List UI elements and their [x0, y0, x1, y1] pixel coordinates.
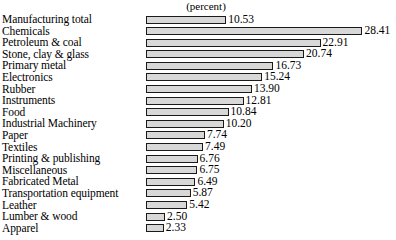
- bar-track: [146, 16, 226, 24]
- category-label: Industrial Machinery: [2, 117, 97, 129]
- bar-track: [146, 201, 187, 209]
- bar: [146, 224, 164, 232]
- bar: [146, 155, 198, 163]
- category-label: Electronics: [2, 71, 53, 83]
- category-label: Stone, clay & glass: [2, 48, 89, 60]
- category-label: Fabricated Metal: [2, 175, 79, 187]
- bar-value-label: 6.75: [199, 163, 219, 175]
- bar: [146, 73, 262, 81]
- bar-value-label: 10.53: [228, 13, 254, 25]
- bar-track: [146, 120, 224, 128]
- category-label: Lumber & wood: [2, 210, 77, 222]
- bar-value-label: 5.87: [193, 186, 213, 198]
- bar-chart: (percent) Manufacturing total10.53Chemic…: [0, 0, 396, 240]
- category-label: Printing & publishing: [2, 152, 100, 164]
- bar-track: [146, 131, 205, 139]
- bar-value-label: 10.84: [231, 105, 257, 117]
- bar-row: Apparel2.33: [0, 223, 396, 235]
- bar-value-label: 22.91: [323, 36, 349, 48]
- bar-track: [146, 97, 244, 105]
- bar: [146, 50, 304, 58]
- bar-value-label: 10.20: [226, 117, 252, 129]
- bar-row: Rubber13.90: [0, 84, 396, 96]
- bar-value-label: 12.81: [246, 94, 272, 106]
- bar: [146, 131, 205, 139]
- category-label: Food: [2, 106, 25, 118]
- bar-track: [146, 50, 304, 58]
- bar-row: Instruments12.81: [0, 95, 396, 107]
- bar-track: [146, 166, 197, 174]
- category-label: Petroleum & coal: [2, 36, 82, 48]
- category-label: Leather: [2, 199, 36, 211]
- bar-track: [146, 73, 262, 81]
- bar: [146, 16, 226, 24]
- bar-value-label: 6.49: [197, 175, 217, 187]
- bar-track: [146, 213, 165, 221]
- bar-track: [146, 108, 229, 116]
- bar: [146, 213, 165, 221]
- bar: [146, 120, 224, 128]
- chart-unit-header: (percent): [146, 0, 266, 13]
- bar-track: [146, 143, 203, 151]
- category-label: Apparel: [2, 222, 38, 234]
- bar: [146, 143, 203, 151]
- category-label: Miscellaneous: [2, 164, 67, 176]
- bar-track: [146, 62, 273, 70]
- bar: [146, 97, 244, 105]
- category-label: Transportation equipment: [2, 187, 118, 199]
- category-label: Paper: [2, 129, 28, 141]
- bar-value-label: 2.50: [167, 210, 187, 222]
- bar-value-label: 16.73: [275, 59, 301, 71]
- category-label: Textiles: [2, 141, 37, 153]
- bar-track: [146, 85, 252, 93]
- bar: [146, 189, 191, 197]
- bar: [146, 166, 197, 174]
- bar-row: Primary metal16.73: [0, 60, 396, 72]
- bar-value-label: 6.76: [200, 152, 220, 164]
- bar-value-label: 20.74: [306, 47, 332, 59]
- bar-value-label: 5.42: [189, 198, 209, 210]
- bar-value-label: 7.49: [205, 140, 225, 152]
- bar-row: Industrial Machinery10.20: [0, 118, 396, 130]
- bar: [146, 62, 273, 70]
- bar-track: [146, 224, 164, 232]
- bar: [146, 178, 195, 186]
- category-label: Chemicals: [2, 25, 50, 37]
- bar-track: [146, 178, 195, 186]
- category-label: Rubber: [2, 83, 35, 95]
- category-label: Manufacturing total: [2, 13, 92, 25]
- bar-track: [146, 27, 362, 35]
- bar-row: Paper7.74: [0, 130, 396, 142]
- bar: [146, 27, 362, 35]
- bar-track: [146, 155, 198, 163]
- bar: [146, 85, 252, 93]
- bar-value-label: 15.24: [264, 70, 290, 82]
- bar: [146, 201, 187, 209]
- bar-row: Electronics15.24: [0, 72, 396, 84]
- bar-track: [146, 189, 191, 197]
- chart-plot-area: Manufacturing total10.53Chemicals28.41Pe…: [0, 14, 396, 234]
- bar-row: Manufacturing total10.53: [0, 14, 396, 26]
- category-label: Primary metal: [2, 59, 66, 71]
- bar-row: Lumber & wood2.50: [0, 211, 396, 223]
- category-label: Instruments: [2, 94, 55, 106]
- bar-track: [146, 39, 321, 47]
- bar-value-label: 7.74: [207, 128, 227, 140]
- bar: [146, 39, 321, 47]
- bar-value-label: 2.33: [166, 221, 186, 233]
- bar: [146, 108, 229, 116]
- bar-value-label: 28.41: [364, 24, 390, 36]
- bar-value-label: 13.90: [254, 82, 280, 94]
